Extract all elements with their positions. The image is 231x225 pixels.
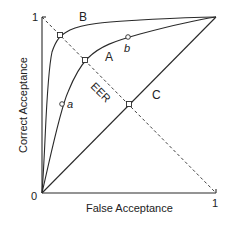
x-axis-label: False Acceptance: [86, 202, 173, 214]
point-a-marker: [60, 102, 65, 107]
curve-a-label: A: [105, 50, 113, 64]
eer-point-b: [58, 33, 63, 38]
curve-b-label: B: [79, 10, 87, 24]
point-b-marker: [126, 35, 131, 40]
y-axis-label: Correct Acceptance: [17, 57, 29, 153]
roc-diagram: 1 0 1 B A C a b EER False Acceptance Cor…: [0, 0, 231, 225]
x-tick-0: 0: [31, 190, 37, 202]
point-a-label: a: [67, 98, 73, 110]
eer-point-c: [127, 102, 132, 107]
eer-point-a: [83, 58, 88, 63]
curve-c-label: C: [152, 88, 161, 102]
x-tick-1: 1: [212, 197, 218, 209]
eer-label: EER: [89, 80, 114, 105]
point-b-label: b: [124, 42, 130, 54]
y-tick-1: 1: [32, 11, 38, 23]
